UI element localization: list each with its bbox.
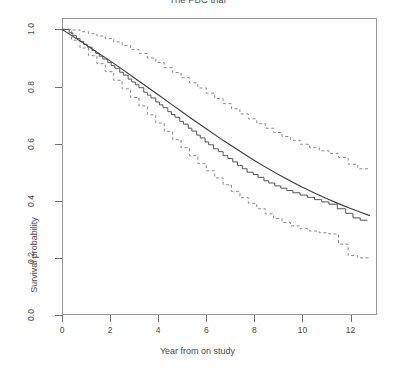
x-tick-label: 10 [287,325,317,335]
confidence-band-upper [62,29,369,168]
x-tick-label: 4 [143,325,173,335]
x-tick-mark [302,315,303,322]
y-tick-label: 1.0 [24,12,38,46]
y-tick-mark [55,29,62,30]
survival-plot-figure: The PBC trial 0.00.20.40.60.81.0 Surviva… [0,0,395,368]
y-tick-mark [55,201,62,202]
y-tick-mark [55,87,62,88]
y-tick-label-holder: 0.8 [14,80,48,94]
x-tick-label: 0 [47,325,77,335]
y-tick-mark [55,144,62,145]
y-tick-mark [55,258,62,259]
x-tick-mark [110,315,111,322]
confidence-band-lower [62,29,369,257]
y-axis-title-holder: Survival probability [8,100,22,240]
fitted-survival-curve [62,29,370,215]
x-axis-title: Year from on study [0,346,395,356]
y-tick-label: 0.6 [24,127,38,161]
x-tick-mark [351,315,352,322]
chart-title: The PBC trial [0,0,395,5]
kaplan-meier-step-curve [62,29,367,220]
plot-canvas [62,18,377,315]
x-tick-label: 6 [191,325,221,335]
x-tick-mark [62,315,63,322]
x-tick-label: 8 [239,325,269,335]
x-tick-mark [254,315,255,322]
y-tick-label: 0.8 [24,70,38,104]
y-axis-title: Survival probability [29,185,39,325]
chart-title-clip: The PBC trial [0,0,395,5]
x-tick-label: 2 [95,325,125,335]
x-tick-mark [206,315,207,322]
x-tick-mark [158,315,159,322]
y-tick-label-holder: 1.0 [14,22,48,36]
y-tick-mark [55,315,62,316]
x-tick-label: 12 [336,325,366,335]
